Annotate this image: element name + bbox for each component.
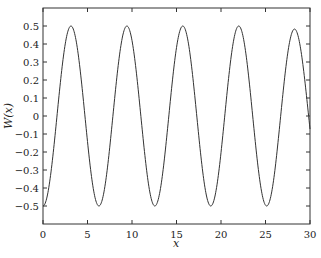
x-axis-label: x	[173, 237, 180, 250]
line-chart: 051015202530 −0.5−0.4−0.3−0.2−0.100.10.2…	[0, 0, 321, 258]
x-tick-label: 20	[215, 229, 228, 240]
y-axis-label: W(x)	[2, 103, 15, 129]
y-tick-label: −0.4	[15, 183, 39, 194]
y-axis-ticks: −0.5−0.4−0.3−0.2−0.100.10.20.30.40.5	[15, 21, 310, 212]
x-tick-label: 5	[84, 229, 90, 240]
y-tick-label: −0.2	[15, 147, 39, 158]
x-tick-label: 25	[259, 229, 272, 240]
y-tick-label: 0.2	[23, 75, 39, 86]
x-tick-label: 0	[40, 229, 46, 240]
y-tick-label: −0.5	[15, 201, 39, 212]
y-tick-label: −0.1	[15, 129, 39, 140]
plot-frame	[43, 8, 310, 224]
x-axis-ticks: 051015202530	[40, 8, 317, 240]
y-tick-label: 0.5	[23, 21, 39, 32]
y-tick-label: −0.3	[15, 165, 39, 176]
x-tick-label: 30	[304, 229, 317, 240]
y-tick-label: 0.4	[23, 39, 39, 50]
y-tick-label: 0.3	[23, 57, 39, 68]
x-tick-label: 10	[126, 229, 139, 240]
y-tick-label: 0	[33, 111, 39, 122]
y-tick-label: 0.1	[23, 93, 39, 104]
data-series-line	[43, 26, 310, 206]
